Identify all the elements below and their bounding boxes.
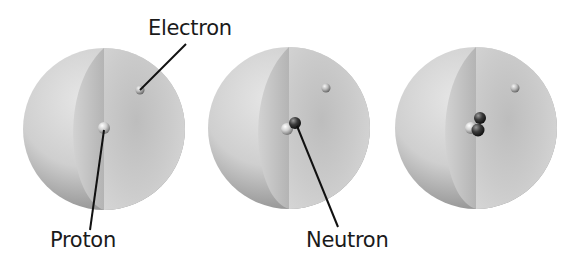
neutron-particle — [289, 117, 301, 129]
atom-1 — [23, 44, 186, 230]
cutaway-right — [104, 48, 185, 210]
neutron-particle — [472, 124, 485, 137]
atom-2 — [208, 47, 370, 227]
neutron-label: Neutron — [306, 228, 388, 252]
neutron-particle — [474, 112, 486, 124]
atom-diagram — [0, 0, 568, 261]
proton-label: Proton — [50, 228, 116, 252]
atom-3 — [395, 47, 557, 209]
electron-particle — [511, 84, 520, 93]
cutaway-right — [476, 47, 557, 209]
electron-label: Electron — [148, 16, 232, 40]
cutaway-right — [289, 47, 370, 209]
electron-particle — [322, 84, 331, 93]
